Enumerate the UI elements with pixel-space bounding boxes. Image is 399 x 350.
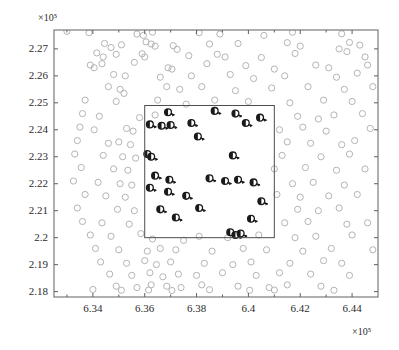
y-tick-label: 2.22 <box>10 177 48 189</box>
scatter-plot-figure: ×10⁵ ×10⁵ 6.346.366.386.46.426.442.182.1… <box>0 0 399 350</box>
x-tick-label: 6.36 <box>131 302 159 314</box>
y-tick-label: 2.18 <box>10 285 48 297</box>
axis-ticks <box>54 30 378 297</box>
plot-canvas <box>0 0 399 350</box>
x-tick-label: 6.42 <box>286 302 314 314</box>
x-tick-label: 6.34 <box>79 302 107 314</box>
x-tick-label: 6.38 <box>183 302 211 314</box>
x-tick-label: 6.4 <box>234 302 262 314</box>
axes-frame <box>54 30 378 297</box>
y-tick-label: 2.19 <box>10 258 48 270</box>
y-tick-label: 2.27 <box>10 42 48 54</box>
y-tick-label: 2.2 <box>10 231 48 243</box>
x-tick-label: 6.44 <box>338 302 366 314</box>
y-tick-label: 2.26 <box>10 69 48 81</box>
y-tick-label: 2.21 <box>10 204 48 216</box>
y-tick-label: 2.24 <box>10 123 48 135</box>
highlighted-scatter-points <box>144 108 268 240</box>
y-axis-multiplier-label: ×10⁵ <box>38 12 57 23</box>
y-tick-label: 2.25 <box>10 96 48 108</box>
background-scatter-points <box>64 28 376 293</box>
x-axis-multiplier-label: ×10⁵ <box>352 326 371 337</box>
y-tick-label: 2.23 <box>10 150 48 162</box>
